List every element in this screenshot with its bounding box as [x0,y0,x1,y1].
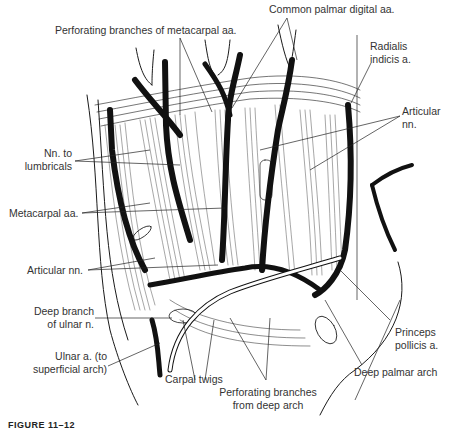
label-metacarpal-aa: Metacarpal aa. [9,207,78,219]
label-common-palmar-digital: Common palmar digital aa. [269,3,394,15]
label-nn-lumbricals-line1: Nn. to [24,147,72,159]
label-articular-nn-right-line1: Articular [402,105,441,117]
label-deep-branch-ulnar-line2: of ulnar n. [20,318,94,330]
label-perforating-deep-line1: Perforating branches [218,386,318,398]
label-nn-lumbricals-line2: lumbricals [14,160,72,172]
label-carpal-twigs: Carpal twigs [165,373,223,385]
figure-caption: FIGURE 11–12 [8,420,75,429]
label-ulnar-a-line1: Ulnar a. (to [20,350,107,362]
label-princeps-pollicis-line2: pollicis a. [395,339,438,351]
label-perforating-metacarpal: Perforating branches of metacarpal aa. [55,24,237,36]
anatomy-figure: Perforating branches of metacarpal aa. C… [0,0,449,429]
label-radialis-indicis-line1: Radialis [370,40,407,52]
label-articular-nn-right-line2: nn. [402,118,417,130]
label-radialis-indicis-line2: indicis a. [370,53,411,65]
label-ulnar-a-line2: superficial arch) [20,363,107,375]
label-princeps-pollicis-line1: Princeps [395,326,436,338]
label-perforating-deep-line2: from deep arch [218,399,318,411]
label-deep-palmar-arch: Deep palmar arch [354,366,437,378]
label-deep-branch-ulnar-line1: Deep branch [20,305,94,317]
label-articular-nn-left: Articular nn. [27,264,83,276]
